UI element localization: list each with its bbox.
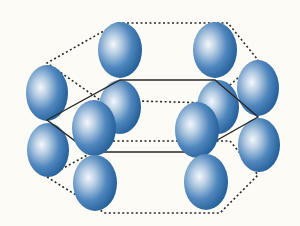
- sphere-mid-front-right-icon: [175, 102, 219, 158]
- sphere-layer-back: [26, 22, 280, 177]
- sphere-bottom-right-icon: [238, 118, 280, 172]
- sphere-mid-front-left-icon: [72, 100, 116, 156]
- sphere-top-back-left-icon: [98, 22, 142, 78]
- sphere-top-back-right-icon: [193, 22, 237, 78]
- sphere-top-right-icon: [237, 60, 279, 116]
- hcp-crystal-diagram: [0, 0, 300, 226]
- sphere-layer-front: [72, 100, 228, 211]
- sphere-bottom-front-left-icon: [73, 155, 117, 211]
- diagram-canvas: [0, 0, 300, 226]
- sphere-bottom-front-right-icon: [184, 154, 228, 210]
